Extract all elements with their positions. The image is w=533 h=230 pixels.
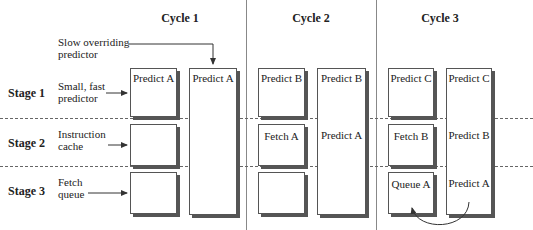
slow-predictor-arrow: [128, 44, 213, 64]
arrows-overlay: [0, 0, 533, 230]
override-feedback-arrow: [412, 202, 469, 225]
